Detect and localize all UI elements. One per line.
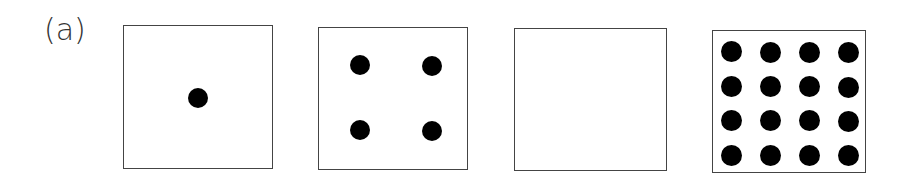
dot-icon — [721, 145, 742, 166]
dot-icon — [799, 76, 820, 97]
dot-icon — [760, 42, 781, 63]
dot-icon — [422, 121, 442, 141]
dot-icon — [799, 110, 820, 131]
dot-icon — [838, 42, 859, 63]
dot-icon — [838, 77, 859, 98]
panel-box-3 — [514, 28, 667, 171]
dot-icon — [721, 76, 742, 97]
dot-icon — [799, 145, 820, 166]
panel-box-2 — [318, 27, 468, 170]
dot-icon — [760, 76, 781, 97]
dot-icon — [422, 56, 442, 76]
dot-icon — [721, 41, 742, 62]
dot-icon — [188, 88, 208, 108]
dot-icon — [760, 145, 781, 166]
dot-icon — [760, 110, 781, 131]
dot-icon — [350, 55, 370, 75]
dot-icon — [721, 110, 742, 131]
dot-icon — [799, 42, 820, 63]
dot-icon — [838, 111, 859, 132]
dot-icon — [838, 145, 859, 166]
dot-icon — [350, 120, 370, 140]
figure-label: (a) — [44, 12, 86, 47]
